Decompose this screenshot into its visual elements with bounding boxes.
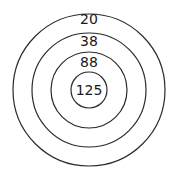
- ring-second-label: 38: [80, 33, 98, 49]
- ring-inner-label: 125: [76, 82, 103, 98]
- ring-third-label: 88: [80, 54, 98, 70]
- concentric-circles-diagram: 20 38 88 125: [0, 0, 172, 177]
- ring-outer-label: 20: [80, 11, 98, 27]
